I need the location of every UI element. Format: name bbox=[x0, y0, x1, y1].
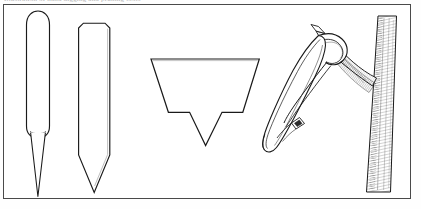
pruning-knife-blade bbox=[263, 36, 326, 152]
figure-illustration bbox=[0, 0, 421, 209]
item-funnel-trowel bbox=[151, 59, 259, 146]
tree-trunk bbox=[367, 16, 397, 192]
item-dibber bbox=[27, 11, 50, 197]
figure-page: Illustration of hand digging and pruning… bbox=[0, 0, 421, 209]
item-pointed-blade bbox=[79, 23, 110, 192]
item-pruning-knife-on-branch bbox=[263, 16, 397, 192]
